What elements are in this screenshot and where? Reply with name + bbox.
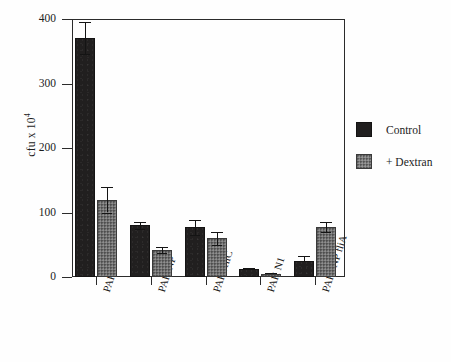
bar-chart-figure: cfu x 104 0100200300400 PAKPAK/NPPAK /fl… bbox=[0, 0, 451, 362]
bar-control bbox=[294, 261, 314, 277]
error-bar-line bbox=[195, 220, 196, 228]
bar-dextran bbox=[316, 227, 336, 277]
error-bar-line bbox=[107, 187, 108, 200]
error-bar-line-lower bbox=[107, 200, 108, 213]
error-bar-cap-top bbox=[265, 273, 277, 274]
error-bar-cap-bottom bbox=[102, 213, 112, 214]
legend-item-control: Control bbox=[356, 122, 432, 137]
y-tick-label: 200 bbox=[16, 141, 56, 153]
error-bar-line-lower bbox=[217, 238, 218, 244]
error-bar-line-lower bbox=[140, 225, 141, 228]
error-bar-cap-top bbox=[134, 222, 146, 223]
legend-swatch-dextran bbox=[356, 154, 372, 169]
x-tick-mark bbox=[206, 277, 207, 285]
legend-swatch-control bbox=[356, 122, 372, 137]
error-bar-cap-bottom bbox=[135, 229, 145, 230]
legend: Control + Dextran bbox=[356, 122, 432, 186]
bar-control bbox=[239, 269, 259, 277]
error-bar-cap-top bbox=[79, 22, 91, 23]
y-tick-mark bbox=[62, 19, 72, 20]
legend-item-dextran: + Dextran bbox=[356, 154, 432, 169]
error-bar-line bbox=[85, 22, 86, 38]
legend-label-control: Control bbox=[386, 124, 421, 136]
x-tick-mark bbox=[315, 277, 316, 285]
error-bar-line-lower bbox=[326, 227, 327, 232]
error-bar-cap-top bbox=[243, 268, 255, 269]
bar-control bbox=[130, 225, 150, 277]
error-bar-cap-top bbox=[320, 222, 332, 223]
x-tick-mark bbox=[96, 277, 97, 285]
y-axis-title: cfu x 104 bbox=[23, 80, 37, 190]
legend-label-dextran: + Dextran bbox=[386, 156, 432, 168]
error-bar-cap-bottom bbox=[212, 245, 222, 246]
y-tick-label: 300 bbox=[16, 77, 56, 89]
y-tick-label: 0 bbox=[16, 270, 56, 282]
error-bar-line-lower bbox=[195, 227, 196, 235]
error-bar-line-lower bbox=[85, 38, 86, 54]
error-bar-cap-top bbox=[211, 232, 223, 233]
y-tick-label: 100 bbox=[16, 206, 56, 218]
error-bar-cap-bottom bbox=[190, 235, 200, 236]
error-bar-cap-top bbox=[156, 247, 168, 248]
x-tick-mark bbox=[260, 277, 261, 285]
bar-dextran bbox=[261, 274, 281, 277]
y-tick-mark bbox=[62, 213, 72, 214]
error-bar-line-lower bbox=[162, 250, 163, 253]
error-bar-cap-top bbox=[298, 256, 310, 257]
y-axis-title-exponent: 4 bbox=[23, 113, 32, 117]
y-tick-label: 400 bbox=[16, 12, 56, 24]
error-bar-cap-bottom bbox=[157, 253, 167, 254]
bar-control bbox=[75, 38, 95, 277]
y-tick-mark bbox=[62, 148, 72, 149]
error-bar-cap-bottom bbox=[80, 54, 90, 55]
error-bar-cap-bottom bbox=[321, 232, 331, 233]
error-bar-cap-top bbox=[189, 220, 201, 221]
y-tick-mark bbox=[62, 84, 72, 85]
error-bar-cap-top bbox=[101, 187, 113, 188]
x-tick-mark bbox=[151, 277, 152, 285]
y-tick-mark bbox=[62, 277, 72, 278]
